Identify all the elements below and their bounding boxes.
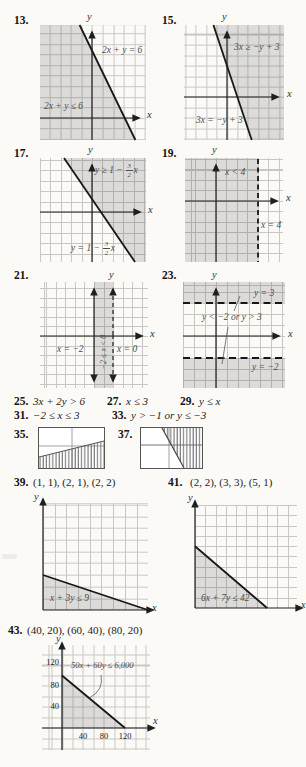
- problem-35-number: 35.: [14, 428, 28, 440]
- answer-29-number: 29.: [180, 395, 194, 407]
- graph-21-left-line-label: x = −2: [57, 344, 84, 354]
- answer-27-text: x ≤ 3: [126, 395, 148, 407]
- graph-35-figure: [38, 427, 105, 469]
- graph-15-y-axis-label: y: [222, 12, 227, 23]
- answer-31-text: −2 ≤ x ≤ 3: [33, 409, 79, 421]
- graph-21-strip-label: −2 ≤ x < 0: [100, 329, 108, 375]
- answer-25-text: 3x + 2y > 6: [33, 395, 85, 407]
- graph-17-x-axis-label: x: [148, 205, 153, 216]
- graph-19-figure: x < 4 x = 4 y x: [185, 158, 283, 262]
- problem-19-number: 19.: [162, 147, 176, 159]
- graph-43-ytick-40: 40: [42, 702, 59, 711]
- graph-43-x-axis-label: x: [153, 716, 158, 727]
- graph-23-figure: y = 3 y = −2 y < −2 or y > 3 y x: [183, 282, 285, 388]
- graph-41-x-axis-label: x: [301, 600, 306, 611]
- problem-23-number: 23.: [162, 269, 176, 281]
- graph-19-region-label: x < 4: [225, 167, 245, 177]
- answer-41-number: 41.: [168, 476, 182, 488]
- graph-43-xtick-40: 40: [77, 732, 89, 741]
- graph-13-y-axis-label: y: [87, 12, 92, 23]
- graph-17-line-label: y = 1 − 32x: [71, 240, 115, 257]
- answer-29-text: y ≤ x: [199, 395, 220, 407]
- graph-35-plot: [39, 428, 104, 468]
- graph-23-bottom-line-label: y = −2: [252, 362, 279, 372]
- graph-21-y-axis-label: y: [109, 270, 114, 281]
- answer-33-number: 33.: [112, 409, 126, 421]
- graph-15-line-label: 3x = −y + 3: [196, 115, 243, 125]
- problem-15-number: 15.: [162, 14, 176, 26]
- graph-13-x-axis-label: x: [147, 110, 152, 121]
- graph-41-figure: 6x + 7y ≤ 42 y x: [195, 505, 297, 608]
- problem-37-number: 37.: [118, 428, 132, 440]
- graph-43-xtick-80: 80: [98, 732, 110, 741]
- graph-21-right-line-label: x = 0: [117, 344, 137, 354]
- graph-21-plot: [40, 282, 148, 388]
- answer-43-number: 43.: [8, 624, 22, 636]
- problem-21-number: 21.: [14, 269, 28, 281]
- graph-19-y-axis-label: y: [212, 145, 217, 156]
- graph-43-figure: 50x + 60y ≤ 6,000 120 80 40 40 80 120 y …: [42, 645, 150, 750]
- graph-43-xtick-120: 120: [117, 732, 133, 741]
- problem-17-number: 17.: [14, 147, 28, 159]
- graph-21-x-axis-label: x: [150, 329, 155, 340]
- answer-39-number: 39.: [14, 476, 28, 488]
- graph-15-region-label: 3x ≥ −y + 3: [234, 42, 279, 52]
- graph-37-figure: [140, 427, 203, 469]
- answer-27-number: 27.: [107, 395, 121, 407]
- answer-39-text: (1, 1), (2, 1), (2, 2): [33, 476, 115, 488]
- textbook-answers-page: 13. 2x + y = 6 2x + y ≤ 6 y x 15. 3x ≥ −…: [0, 0, 306, 767]
- graph-17-region-label: y ≥ 1 − 32x: [95, 162, 138, 179]
- answer-33-text: y > −1 or y ≤ −3: [131, 409, 206, 421]
- graph-43-ytick-80: 80: [42, 681, 59, 690]
- graph-21-figure: x = −2 x = 0 −2 ≤ x < 0 y x: [40, 282, 148, 388]
- graph-17-y-axis-label: y: [88, 145, 93, 156]
- graph-39-region-label: x + 3y ≤ 9: [50, 593, 89, 603]
- graph-13-line-label: 2x + y = 6: [102, 45, 142, 55]
- graph-43-region-label: 50x + 60y ≤ 6,000: [71, 661, 134, 670]
- problem-13-number: 13.: [14, 14, 28, 26]
- graph-41-y-axis-label: y: [188, 493, 193, 504]
- graph-23-x-axis-label: x: [288, 329, 293, 340]
- graph-17-figure: y ≥ 1 − 32x y = 1 − 32x y x: [40, 158, 146, 262]
- answer-31-number: 31.: [14, 409, 28, 421]
- answer-43-text: (40, 20), (60, 40), (80, 20): [27, 624, 142, 636]
- graph-13-plot: [40, 25, 146, 140]
- graph-39-x-axis-label: x: [152, 603, 157, 614]
- scan-artifact: [2, 554, 17, 559]
- answer-41-text: (2, 2), (3, 3), (5, 1): [190, 476, 272, 488]
- graph-39-figure: x + 3y ≤ 9 y x: [43, 503, 148, 610]
- graph-19-x-axis-label: x: [286, 193, 291, 204]
- graph-23-region-label: y < −2 or y > 3: [202, 312, 262, 322]
- answer-25-number: 25.: [14, 395, 28, 407]
- graph-43-y-axis-label: y: [56, 634, 61, 645]
- graph-15-figure: 3x ≥ −y + 3 3x = −y + 3 y x: [184, 25, 284, 140]
- graph-23-y-axis-label: y: [212, 270, 217, 281]
- graph-23-top-line-label: y = 3: [254, 288, 274, 298]
- graph-19-line-label: x = 4: [261, 220, 281, 230]
- graph-41-region-label: 6x + 7y ≤ 42: [201, 593, 250, 603]
- graph-13-region-label: 2x + y ≤ 6: [44, 101, 83, 111]
- graph-39-y-axis-label: y: [34, 492, 39, 503]
- graph-43-ytick-120: 120: [42, 658, 59, 667]
- graph-37-plot: [141, 428, 202, 468]
- graph-13-figure: 2x + y = 6 2x + y ≤ 6 y x: [40, 25, 146, 140]
- graph-15-x-axis-label: x: [287, 89, 292, 100]
